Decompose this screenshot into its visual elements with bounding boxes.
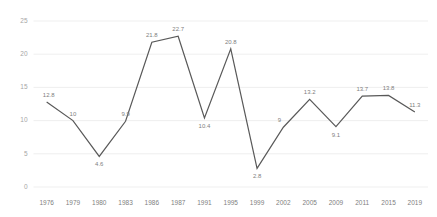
x-axis-tick-label: 1987 <box>171 199 186 206</box>
data-point-label: 20.8 <box>225 39 237 45</box>
x-axis-tick-label: 2009 <box>329 199 344 206</box>
data-point-label: 13.7 <box>356 86 368 92</box>
x-axis-tick-label: 2002 <box>276 199 291 206</box>
y-axis-tick-label: 0 <box>24 183 28 190</box>
data-point-label: 9.9 <box>121 111 130 117</box>
x-axis-tick-label: 1979 <box>66 199 81 206</box>
y-axis-tick-label: 25 <box>20 17 28 24</box>
data-point-label: 10.4 <box>199 123 211 129</box>
data-point-label: 10 <box>70 111 77 117</box>
data-point-label: 9 <box>278 117 282 123</box>
x-axis-tick-label: 2019 <box>408 199 423 206</box>
data-point-label: 13.8 <box>383 85 395 91</box>
y-axis-tick-label: 20 <box>20 50 28 57</box>
data-point-label: 4.6 <box>95 161 104 167</box>
y-axis-tick-label: 15 <box>20 83 28 90</box>
gridlines <box>34 21 429 187</box>
x-axis-tick-label: 1976 <box>39 199 54 206</box>
x-axis-tick-label: 1983 <box>118 199 133 206</box>
chart-canvas: 0510152025 19761979198019831986198719911… <box>0 0 437 217</box>
x-axis-tick-label: 1986 <box>145 199 160 206</box>
data-point-label: 2.8 <box>253 173 262 179</box>
x-axis-tick-label: 1999 <box>250 199 265 206</box>
line-chart: 0510152025 19761979198019831986198719911… <box>0 0 437 217</box>
x-axis-tick-label: 2015 <box>381 199 396 206</box>
y-axis-tick-labels: 0510152025 <box>20 17 28 190</box>
data-point-label: 9.1 <box>332 132 341 138</box>
x-axis-tick-label: 1991 <box>197 199 212 206</box>
x-axis-tick-label: 1980 <box>92 199 107 206</box>
x-axis-tick-label: 1995 <box>224 199 239 206</box>
data-series-line <box>47 36 415 168</box>
series-polyline <box>47 36 415 168</box>
x-axis-tick-label: 2011 <box>355 199 369 206</box>
data-point-label: 22.7 <box>172 26 184 32</box>
y-axis-tick-label: 5 <box>24 150 28 157</box>
x-axis-tick-label: 2005 <box>302 199 317 206</box>
data-point-label: 12.8 <box>43 92 55 98</box>
data-point-label: 21.8 <box>146 32 158 38</box>
y-axis-tick-label: 10 <box>20 116 28 123</box>
x-axis-tick-labels: 1976197919801983198619871991199519992002… <box>39 199 422 206</box>
data-point-label: 13.2 <box>304 89 316 95</box>
data-point-label: 11.3 <box>409 102 421 108</box>
